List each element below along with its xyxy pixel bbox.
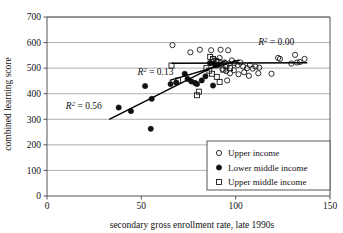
- data-point-0-25: [242, 70, 247, 75]
- y-tick-label-0: 0: [36, 191, 41, 201]
- data-points: [116, 43, 307, 132]
- series-upper-middle-income: [169, 54, 232, 97]
- data-point-1-13: [203, 74, 208, 79]
- data-point-0-31: [277, 56, 282, 61]
- chart-legend: Upper incomeLower middle incomeUpper mid…: [207, 141, 330, 190]
- data-point-0-28: [256, 71, 261, 76]
- legend-marker-lower-middle-income: [216, 165, 221, 170]
- r2-lower-middle-income: R2 = 0.56: [65, 100, 102, 111]
- chart-figure: 0100200300400500600700050100150 R2 = 0.0…: [0, 0, 343, 233]
- data-point-0-3: [209, 48, 214, 53]
- data-point-1-4: [148, 126, 153, 131]
- data-point-0-27: [225, 78, 230, 83]
- data-point-0-0: [170, 43, 175, 48]
- legend-label-upper-middle-income: Upper middle income: [228, 177, 306, 187]
- data-point-1-15: [210, 83, 215, 88]
- r2-annotations: R2 = 0.00R2 = 0.13R2 = 0.56: [65, 36, 295, 111]
- y-tick-label-300: 300: [27, 115, 42, 125]
- data-point-0-1: [188, 50, 193, 55]
- scatter-plot: 0100200300400500600700050100150 R2 = 0.0…: [0, 0, 343, 233]
- data-point-1-0: [116, 105, 121, 110]
- data-point-2-11: [217, 79, 222, 84]
- x-tick-label-100: 100: [229, 201, 244, 211]
- data-point-0-2: [197, 47, 202, 52]
- data-point-0-36: [302, 56, 307, 61]
- x-axis-label: secondary gross enrollment rate, late 19…: [110, 220, 275, 230]
- x-tick-label-50: 50: [137, 201, 147, 211]
- legend-label-lower-middle-income: Lower middle income: [228, 163, 307, 173]
- data-point-2-10: [214, 74, 219, 79]
- legend-label-upper-income: Upper income: [228, 148, 279, 158]
- data-point-1-12: [199, 78, 204, 83]
- y-tick-label-500: 500: [27, 63, 42, 73]
- r2-upper-income: R2 = 0.00: [257, 36, 294, 47]
- data-point-0-5: [226, 48, 231, 53]
- data-point-0-26: [246, 73, 251, 78]
- y-tick-label-100: 100: [27, 166, 42, 176]
- trend-line-upper-income: [172, 63, 308, 64]
- r2-upper-middle-income: R2 = 0.13: [137, 66, 174, 77]
- x-tick-label-0: 0: [45, 201, 50, 211]
- y-tick-label-700: 700: [27, 12, 42, 22]
- data-point-0-24: [236, 72, 241, 77]
- y-tick-label-200: 200: [27, 140, 42, 150]
- y-axis-label: combined learning score: [3, 57, 13, 150]
- data-point-0-29: [269, 71, 274, 76]
- data-point-0-33: [292, 52, 297, 57]
- data-point-1-11: [194, 81, 199, 86]
- data-point-0-4: [218, 47, 223, 52]
- x-tick-label-150: 150: [323, 201, 338, 211]
- data-point-1-2: [143, 83, 148, 88]
- y-tick-label-400: 400: [27, 89, 42, 99]
- data-point-1-5: [168, 81, 173, 86]
- y-tick-label-600: 600: [27, 38, 42, 48]
